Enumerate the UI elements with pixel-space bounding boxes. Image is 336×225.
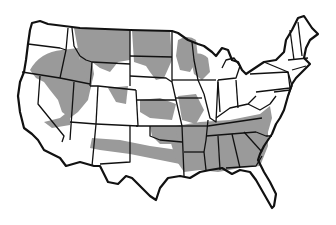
border-nh-me: [298, 22, 302, 56]
us-map: [0, 0, 336, 225]
border-ky-north: [216, 96, 256, 118]
border-oh: [236, 80, 238, 108]
shade-dakotas: [132, 30, 172, 80]
border-wv-va: [248, 96, 276, 110]
border-vt-nh: [290, 30, 294, 60]
border-co-east: [136, 90, 138, 126]
border-il: [204, 80, 218, 122]
border-sd-ne: [130, 76, 172, 82]
border-mi: [218, 58, 240, 80]
border-in: [218, 82, 220, 112]
border-co-nm: [96, 124, 138, 126]
shade-kansas: [140, 98, 176, 120]
border-pa: [250, 72, 290, 92]
border-wa-or: [28, 44, 66, 50]
border-ut-co: [96, 86, 98, 124]
border-ny: [264, 62, 288, 72]
border-md: [274, 90, 290, 92]
border-ut-az: [70, 122, 96, 124]
shade-wisconsin: [190, 53, 210, 80]
